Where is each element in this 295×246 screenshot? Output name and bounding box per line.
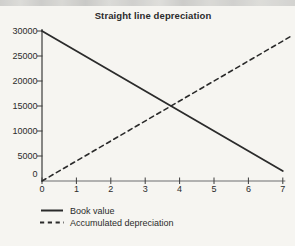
legend: Book value Accumulated depreciation [40, 205, 174, 228]
solid-line-swatch [40, 208, 64, 213]
y-tick-label: 15000 [12, 101, 37, 111]
legend-item-book-value: Book value [40, 205, 174, 216]
dashed-line-swatch [40, 220, 64, 225]
legend-label-book-value: Book value [70, 206, 115, 216]
book-value-line [42, 31, 283, 171]
x-tick-label: 1 [74, 184, 79, 194]
legend-item-accumulated-depreciation: Accumulated depreciation [40, 217, 174, 228]
scanned-figure: Straight line depreciation 0123456705000… [0, 0, 295, 246]
y-tick-label: 20000 [12, 76, 37, 86]
legend-label-accumulated-depreciation: Accumulated depreciation [70, 218, 174, 228]
x-tick-label: 3 [143, 184, 148, 194]
x-tick-label: 2 [108, 184, 113, 194]
x-tick-label: 0 [39, 184, 44, 194]
x-tick-label: 7 [280, 184, 285, 194]
y-tick-label: 30000 [12, 26, 37, 36]
y-tick-label: 25000 [12, 51, 37, 61]
x-tick-label: 5 [211, 184, 216, 194]
accumulated-depreciation-line [42, 36, 292, 181]
y-tick-label: 5000 [17, 151, 37, 161]
y-tick-label: 0 [32, 169, 37, 179]
x-tick-label: 4 [177, 184, 182, 194]
x-tick-label: 6 [246, 184, 251, 194]
y-tick-label: 10000 [12, 126, 37, 136]
